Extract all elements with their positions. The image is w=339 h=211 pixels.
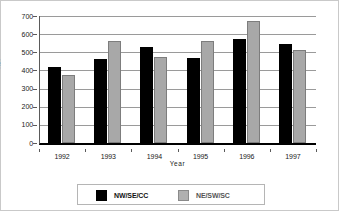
- legend-label: NW/SE/CC: [114, 192, 148, 199]
- y-axis-tick-label: 200: [7, 103, 33, 110]
- bar: [108, 41, 121, 143]
- x-axis-tick-mark: [85, 149, 86, 152]
- y-axis-tick-mark: [33, 34, 37, 35]
- legend-swatch: [178, 190, 189, 201]
- legend-swatch: [96, 190, 107, 201]
- y-axis-tick-label: 0: [7, 140, 33, 147]
- y-axis-tick-label: 400: [7, 67, 33, 74]
- y-axis-tick-label: 300: [7, 85, 33, 92]
- bar-group: [225, 16, 271, 143]
- x-axis-tick-mark: [316, 149, 317, 152]
- y-axis-tick-labels: 0100200300400500600700: [5, 16, 33, 145]
- bar-group: [40, 16, 86, 143]
- bar: [293, 50, 306, 143]
- bar-group: [179, 16, 225, 143]
- x-axis-tick-mark: [39, 149, 40, 152]
- y-axis-tick-label: 500: [7, 49, 33, 56]
- x-axis-label: Year: [39, 160, 316, 167]
- bar-group: [132, 16, 178, 143]
- plot-area: [39, 16, 316, 145]
- x-axis-tick-mark: [178, 149, 179, 152]
- bar: [140, 47, 153, 143]
- bar: [247, 21, 260, 143]
- y-axis-tick-mark: [33, 143, 37, 144]
- bar: [62, 75, 75, 143]
- chart-legend: NW/SE/CCNE/SW/SC: [77, 184, 265, 205]
- y-axis-tick-mark: [33, 89, 37, 90]
- y-axis-tick-mark: [33, 107, 37, 108]
- legend-label: NE/SW/SC: [196, 192, 230, 199]
- bar: [201, 41, 214, 143]
- y-axis-tick-label: 100: [7, 121, 33, 128]
- y-axis-tick-mark: [33, 125, 37, 126]
- y-axis-tick-mark: [33, 16, 37, 17]
- bar-group: [271, 16, 317, 143]
- x-axis-tick-mark: [270, 149, 271, 152]
- bar: [154, 57, 167, 143]
- x-axis-tick-mark: [131, 149, 132, 152]
- y-axis-tick-label: 700: [7, 13, 33, 20]
- bar: [279, 44, 292, 143]
- y-axis-tick-label: 600: [7, 31, 33, 38]
- y-axis-tick-mark: [33, 52, 37, 53]
- y-axis-tick-mark: [33, 70, 37, 71]
- y-axis-label: RDI: [0, 59, 1, 68]
- x-axis-tick-mark: [224, 149, 225, 152]
- bar: [187, 58, 200, 143]
- legend-entry: NW/SE/CC: [96, 189, 148, 201]
- bar-group: [86, 16, 132, 143]
- bar-chart-figure: 0100200300400500600700 RDI 1992199319941…: [0, 0, 339, 211]
- bar: [233, 39, 246, 143]
- bar: [94, 59, 107, 143]
- bar: [48, 67, 61, 143]
- legend-entry: NE/SW/SC: [178, 189, 230, 201]
